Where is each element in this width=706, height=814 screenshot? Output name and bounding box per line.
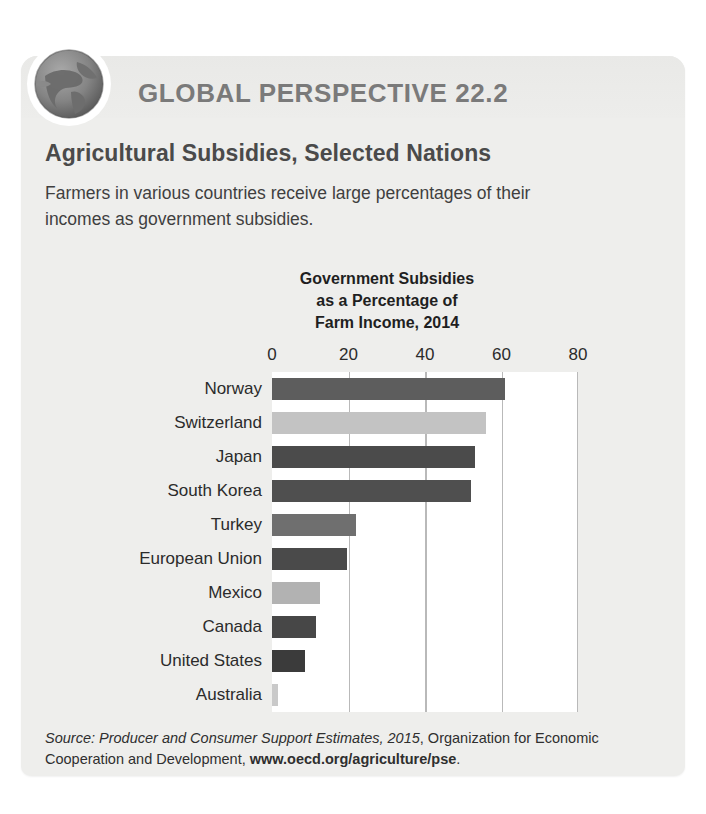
bar bbox=[272, 684, 278, 706]
bar bbox=[272, 616, 316, 638]
x-tick-label: 60 bbox=[492, 345, 511, 365]
bar-category-label: European Union bbox=[0, 549, 262, 569]
bar bbox=[272, 548, 347, 570]
bar-category-label: Mexico bbox=[0, 583, 262, 603]
source-note: Source: Producer and Consumer Support Es… bbox=[45, 728, 655, 770]
bar bbox=[272, 412, 486, 434]
chart-title: Government Subsidies as a Percentage of … bbox=[172, 268, 602, 334]
bar-category-label: Japan bbox=[0, 447, 262, 467]
bar-row: United States bbox=[0, 644, 706, 678]
bar-rows: NorwaySwitzerlandJapanSouth KoreaTurkeyE… bbox=[0, 372, 706, 712]
bar-row: Switzerland bbox=[0, 406, 706, 440]
source-label: Source: bbox=[45, 730, 95, 746]
bar-category-label: South Korea bbox=[0, 481, 262, 501]
bar-row: Japan bbox=[0, 440, 706, 474]
chart-title-line-2: as a Percentage of bbox=[172, 290, 602, 312]
source-title: Producer and Consumer Support Estimates,… bbox=[99, 730, 420, 746]
page-root: GLOBAL PERSPECTIVE 22.2 Agricultural Sub… bbox=[0, 0, 706, 814]
bar bbox=[272, 480, 471, 502]
bar-category-label: Norway bbox=[0, 379, 262, 399]
bar-category-label: United States bbox=[0, 651, 262, 671]
bar-row: Canada bbox=[0, 610, 706, 644]
x-tick-label: 40 bbox=[416, 345, 435, 365]
bar-row: Norway bbox=[0, 372, 706, 406]
chart-title-line-3: Farm Income, 2014 bbox=[172, 312, 602, 334]
x-axis-tick-labels: 020406080 bbox=[0, 345, 706, 371]
bar bbox=[272, 446, 475, 468]
feature-title: Agricultural Subsidies, Selected Nations bbox=[45, 140, 491, 167]
source-period: . bbox=[456, 751, 460, 767]
bar-category-label: Switzerland bbox=[0, 413, 262, 433]
bar-row: Australia bbox=[0, 678, 706, 712]
bar-row: Mexico bbox=[0, 576, 706, 610]
bar-chart: 020406080 NorwaySwitzerlandJapanSouth Ko… bbox=[0, 345, 706, 720]
x-tick-label: 80 bbox=[569, 345, 588, 365]
feature-description: Farmers in various countries receive lar… bbox=[45, 180, 555, 232]
globe-icon bbox=[27, 42, 111, 126]
bar bbox=[272, 650, 305, 672]
bar-row: European Union bbox=[0, 542, 706, 576]
globe-icon-graphic bbox=[31, 46, 107, 122]
bar bbox=[272, 582, 320, 604]
bar-category-label: Turkey bbox=[0, 515, 262, 535]
x-tick-label: 20 bbox=[339, 345, 358, 365]
bar-category-label: Australia bbox=[0, 685, 262, 705]
source-url[interactable]: www.oecd.org/agriculture/pse bbox=[250, 751, 457, 767]
bar-category-label: Canada bbox=[0, 617, 262, 637]
feature-kicker: GLOBAL PERSPECTIVE 22.2 bbox=[138, 78, 508, 109]
bar bbox=[272, 514, 356, 536]
chart-title-line-1: Government Subsidies bbox=[172, 268, 602, 290]
bar-row: South Korea bbox=[0, 474, 706, 508]
bar-row: Turkey bbox=[0, 508, 706, 542]
x-tick-label: 0 bbox=[267, 345, 276, 365]
bar bbox=[272, 378, 505, 400]
